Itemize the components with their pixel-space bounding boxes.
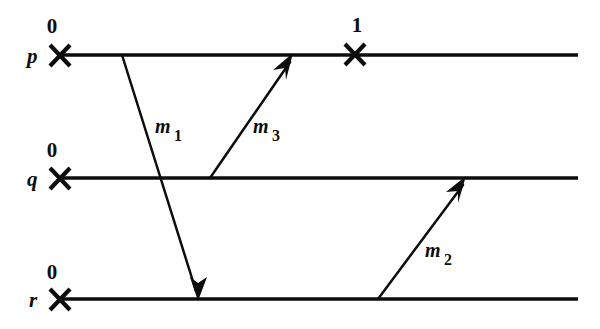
message-line-m2 — [378, 185, 463, 299]
diagram-canvas: p q r 0 1 — [0, 0, 600, 329]
clock-label-p-1: 1 — [352, 13, 363, 37]
message-arrow-m3 — [210, 53, 293, 178]
message-label-m1-base: m — [155, 115, 171, 137]
message-label-m3-subscript: 3 — [272, 127, 280, 144]
process-timelines — [60, 55, 578, 299]
message-label-m2-subscript: 2 — [444, 251, 452, 268]
message-labels: m 1 m 3 m 2 — [155, 115, 452, 268]
arrow-head-m3 — [273, 53, 293, 80]
message-label-m3-base: m — [253, 115, 269, 137]
message-label-m1: m 1 — [155, 115, 182, 144]
message-line-m3 — [210, 62, 290, 178]
space-time-diagram: p q r 0 1 — [0, 0, 600, 329]
arrow-head-m2 — [446, 176, 466, 203]
process-label-p: p — [25, 44, 38, 68]
clock-label-p-0: 0 — [47, 14, 58, 38]
message-arrow-m2 — [378, 176, 466, 299]
clock-label-q-0: 0 — [47, 138, 58, 162]
process-labels: p q r — [25, 44, 38, 312]
clock-label-r-0: 0 — [47, 260, 58, 284]
process-label-r: r — [29, 288, 38, 312]
message-label-m1-subscript: 1 — [174, 127, 182, 144]
message-label-m2: m 2 — [425, 239, 452, 268]
message-line-m1 — [122, 55, 196, 291]
message-label-m3: m 3 — [253, 115, 280, 144]
process-label-q: q — [27, 167, 38, 191]
message-label-m2-base: m — [425, 239, 441, 261]
